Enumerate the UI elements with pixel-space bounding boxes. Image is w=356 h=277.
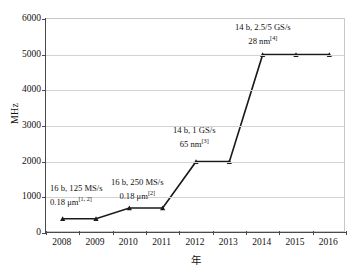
x-tick-label: 2016 [308, 236, 348, 248]
adc-sampling-rate-chart: MHz 0100020003000400050006000 2008200920… [0, 0, 356, 277]
y-tick-label: 4000 [11, 84, 41, 94]
y-tick-label: 3000 [11, 120, 41, 130]
annotation-2010: 16 b, 250 MS/s 0.18 μm[2] [111, 177, 164, 201]
x-axis-title: 年 [45, 252, 346, 267]
gridline [46, 55, 344, 56]
y-tick-label: 5000 [11, 49, 41, 59]
y-tick-label: 6000 [11, 13, 41, 23]
annotation-process: 65 nm [180, 138, 202, 148]
gridline [46, 162, 344, 163]
x-axis-spine [45, 232, 346, 233]
annotation-line-1: 16 b, 125 MS/s [50, 183, 103, 194]
x-tick-label-group: 200820092010201120122013201420152016 [45, 236, 346, 250]
annotation-reference: [1, 2] [78, 195, 91, 202]
annotation-2014: 14 b, 2.5/5 GS/s 28 nm[4] [235, 22, 291, 46]
annotation-line-1: 14 b, 1 GS/s [173, 125, 216, 136]
annotation-line-2: 0.18 μm[2] [111, 188, 164, 201]
gridline [46, 90, 344, 91]
y-tick-label: 1000 [11, 191, 41, 201]
annotation-line-2: 65 nm[3] [173, 136, 216, 149]
y-tick-label: 2000 [11, 156, 41, 166]
annotation-process: 0.18 μm [50, 196, 78, 206]
y-tick-label-group: 0100020003000400050006000 [0, 0, 41, 277]
y-tick-label: 0 [11, 227, 41, 237]
annotation-reference: [3] [202, 137, 209, 144]
annotation-process: 28 nm [248, 35, 270, 45]
x-tick [346, 231, 347, 235]
annotation-2012: 14 b, 1 GS/s 65 nm[3] [173, 125, 216, 149]
annotation-line-1: 14 b, 2.5/5 GS/s [235, 22, 291, 33]
annotation-line-2: 0.18 μm[1, 2] [50, 194, 103, 207]
annotation-reference: [4] [270, 34, 277, 41]
annotation-line-2: 28 nm[4] [235, 33, 291, 46]
annotation-reference: [2] [148, 189, 155, 196]
y-axis-spine [45, 18, 46, 233]
annotation-2008: 16 b, 125 MS/s 0.18 μm[1, 2] [50, 183, 103, 207]
annotation-process: 0.18 μm [119, 190, 147, 200]
annotation-line-1: 16 b, 250 MS/s [111, 177, 164, 188]
